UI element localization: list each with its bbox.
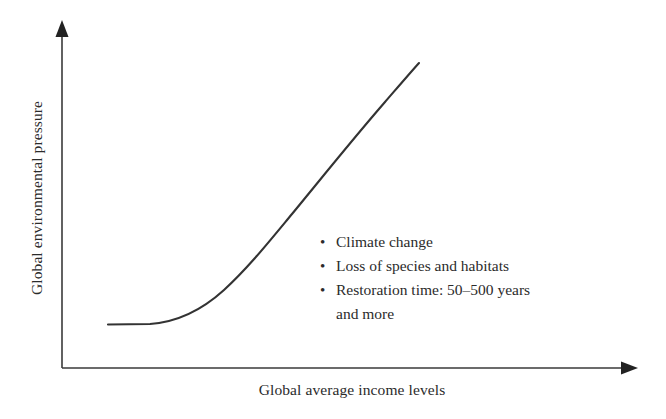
list-item: • Restoration time: 50–500 years bbox=[320, 278, 650, 302]
bullet-icon: • bbox=[320, 254, 336, 278]
bullet-icon: • bbox=[320, 230, 336, 254]
environmental-kuznets-curve-figure: Global environmental pressure Global ave… bbox=[0, 0, 666, 419]
list-item-label: Restoration time: 50–500 years bbox=[336, 278, 650, 302]
x-axis-label: Global average income levels bbox=[232, 381, 472, 399]
list-item-label: Loss of species and habitats bbox=[336, 254, 650, 278]
arrow-up-icon bbox=[56, 20, 69, 37]
list-item: • Loss of species and habitats bbox=[320, 254, 650, 278]
list-item-label: Climate change bbox=[336, 230, 650, 254]
annotation-bullet-list: • Climate change • Loss of species and h… bbox=[320, 230, 650, 326]
list-item: • Climate change bbox=[320, 230, 650, 254]
plot-canvas bbox=[0, 0, 666, 419]
list-item-continuation: and more bbox=[320, 302, 650, 326]
bullet-icon: • bbox=[320, 278, 336, 302]
arrow-right-icon bbox=[621, 362, 638, 375]
y-axis-label: Global environmental pressure bbox=[28, 53, 50, 343]
